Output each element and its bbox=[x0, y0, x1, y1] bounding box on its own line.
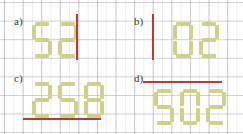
segment-g-icon bbox=[209, 105, 223, 109]
seven-segment-digit bbox=[199, 22, 219, 58]
segment-d-icon bbox=[35, 54, 49, 58]
segment-b-icon bbox=[215, 25, 219, 39]
panel-d: d) bbox=[121, 67, 243, 134]
segment-f-icon bbox=[180, 92, 184, 106]
panel-d-digits bbox=[154, 89, 232, 125]
segment-c-icon bbox=[48, 41, 52, 55]
segment-e-icon bbox=[84, 101, 88, 115]
segment-c-icon bbox=[189, 41, 193, 55]
seven-segment-digit bbox=[84, 82, 104, 118]
panel-a-red-line bbox=[76, 14, 78, 60]
segment-g-icon bbox=[157, 105, 171, 109]
segment-g-icon bbox=[61, 98, 75, 102]
segment-b-icon bbox=[48, 85, 52, 99]
segment-c-icon bbox=[74, 101, 78, 115]
seven-segment-digit bbox=[154, 89, 174, 125]
segment-a-icon bbox=[209, 89, 223, 93]
segment-g-icon bbox=[35, 98, 49, 102]
panel-c-red-line bbox=[23, 118, 101, 120]
worksheet-canvas: a) b) c) d) bbox=[0, 0, 243, 134]
segment-c-icon bbox=[170, 108, 174, 122]
seven-segment-digit bbox=[206, 89, 226, 125]
segment-a-icon bbox=[35, 22, 49, 26]
seven-segment-digit bbox=[32, 22, 52, 58]
segment-g-icon bbox=[35, 38, 49, 42]
panel-b-digits bbox=[173, 22, 225, 58]
panel-d-red-line bbox=[143, 81, 222, 83]
panel-d-label: d) bbox=[134, 73, 143, 84]
segment-c-icon bbox=[100, 101, 104, 115]
segment-e-icon bbox=[32, 101, 36, 115]
segment-e-icon bbox=[199, 41, 203, 55]
segment-e-icon bbox=[58, 41, 62, 55]
seven-segment-digit bbox=[58, 82, 78, 118]
segment-a-icon bbox=[202, 22, 216, 26]
segment-g-icon bbox=[87, 98, 101, 102]
segment-g-icon bbox=[202, 38, 216, 42]
segment-a-icon bbox=[176, 22, 190, 26]
segment-b-icon bbox=[189, 25, 193, 39]
segment-f-icon bbox=[154, 92, 158, 106]
panel-b-label: b) bbox=[134, 16, 143, 27]
segment-b-icon bbox=[222, 92, 226, 106]
panel-b: b) bbox=[121, 0, 243, 67]
segment-a-icon bbox=[157, 89, 171, 93]
seven-segment-digit bbox=[180, 89, 200, 125]
segment-e-icon bbox=[173, 41, 177, 55]
segment-e-icon bbox=[180, 108, 184, 122]
segment-d-icon bbox=[202, 54, 216, 58]
segment-e-icon bbox=[206, 108, 210, 122]
segment-b-icon bbox=[196, 92, 200, 106]
segment-b-icon bbox=[100, 85, 104, 99]
segment-c-icon bbox=[196, 108, 200, 122]
panel-a-label: a) bbox=[14, 16, 23, 27]
seven-segment-digit bbox=[173, 22, 193, 58]
panel-b-red-line bbox=[152, 14, 154, 60]
segment-a-icon bbox=[35, 82, 49, 86]
segment-d-icon bbox=[176, 54, 190, 58]
segment-d-icon bbox=[183, 121, 197, 125]
segment-d-icon bbox=[157, 121, 171, 125]
segment-d-icon bbox=[61, 54, 75, 58]
segment-g-icon bbox=[61, 38, 75, 42]
segment-f-icon bbox=[58, 85, 62, 99]
segment-a-icon bbox=[61, 22, 75, 26]
panel-a: a) bbox=[0, 0, 121, 67]
segment-a-icon bbox=[87, 82, 101, 86]
segment-f-icon bbox=[84, 85, 88, 99]
segment-f-icon bbox=[32, 25, 36, 39]
panel-c-label: c) bbox=[14, 73, 23, 84]
panel-c-digits bbox=[32, 82, 110, 118]
seven-segment-digit bbox=[58, 22, 78, 58]
seven-segment-digit bbox=[32, 82, 52, 118]
segment-a-icon bbox=[61, 82, 75, 86]
panel-c: c) bbox=[0, 67, 121, 134]
segment-f-icon bbox=[173, 25, 177, 39]
segment-d-icon bbox=[209, 121, 223, 125]
segment-a-icon bbox=[183, 89, 197, 93]
